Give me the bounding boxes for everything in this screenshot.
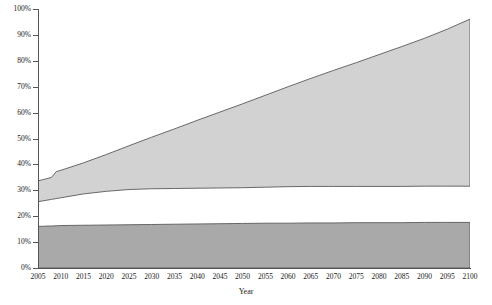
y-tick-label: 40% <box>0 160 31 168</box>
y-axis-line <box>38 9 39 269</box>
y-tick-mark <box>33 61 38 62</box>
y-tick-label: 100% <box>0 5 31 13</box>
y-tick-mark <box>33 9 38 10</box>
y-tick-label: 10% <box>0 238 31 246</box>
y-tick-label: 60% <box>0 109 31 117</box>
y-tick-label: 80% <box>0 57 31 65</box>
x-axis-line <box>38 268 471 269</box>
area-chart-svg <box>38 9 470 268</box>
y-tick-label: 0% <box>0 264 31 272</box>
y-tick-mark <box>33 139 38 140</box>
y-tick-label: 90% <box>0 31 31 39</box>
y-tick-mark <box>33 242 38 243</box>
x-axis-title: Year <box>0 287 492 297</box>
y-tick-mark <box>33 268 38 269</box>
series-area-upper-light-band <box>38 19 470 202</box>
y-tick-mark <box>33 164 38 165</box>
plot-area <box>38 9 470 268</box>
y-tick-label: 20% <box>0 212 31 220</box>
series-area-lower-dark-band <box>38 222 470 268</box>
y-tick-mark <box>33 190 38 191</box>
y-tick-label: 30% <box>0 186 31 194</box>
y-tick-mark <box>33 113 38 114</box>
y-tick-mark <box>33 35 38 36</box>
y-tick-label: 50% <box>0 135 31 143</box>
x-tick-label: 2100 <box>450 272 490 281</box>
y-tick-mark <box>33 216 38 217</box>
y-tick-mark <box>33 87 38 88</box>
y-tick-label: 70% <box>0 83 31 91</box>
chart-container: 0%10%20%30%40%50%60%70%80%90%100% 200520… <box>0 0 492 305</box>
